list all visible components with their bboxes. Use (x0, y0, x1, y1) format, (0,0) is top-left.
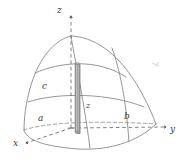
figure-canvas (0, 0, 180, 159)
x-axis-line (26, 128, 71, 143)
x-axis-label: x (13, 139, 18, 148)
column-bottom-cap (75, 132, 80, 134)
column-top-cap (75, 63, 80, 65)
base-rear-dashed-arc-xy (24, 122, 156, 130)
outer-boundary-curve-yz (71, 36, 156, 124)
differential-column-element (75, 63, 80, 134)
semi-axis-b-label: b (124, 112, 130, 121)
ellipsoid-octant-figure: z y x a b c z (0, 0, 180, 159)
stray-pencil-mark (152, 62, 159, 67)
y-axis-label: y (170, 125, 175, 134)
column-height-label: z (86, 102, 90, 110)
ellipsoid-surface (24, 36, 156, 149)
semi-axis-a-label: a (38, 114, 43, 123)
left-boundary-curve-xz (24, 36, 71, 130)
gridline-meridian-mid (71, 36, 90, 148)
semi-axis-c-label: c (42, 82, 47, 91)
coordinate-axes (26, 16, 166, 143)
gridline-parallel-upper (35, 64, 126, 77)
z-axis-label: z (57, 6, 62, 15)
